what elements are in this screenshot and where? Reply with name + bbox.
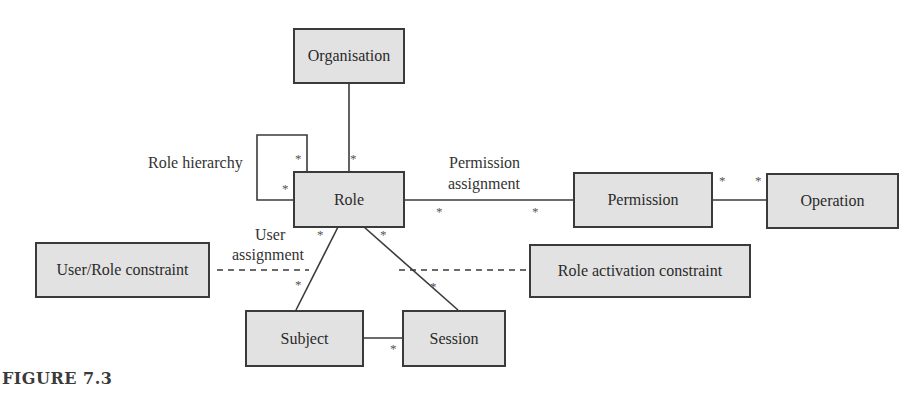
figure-caption: FIGURE 7.3 [2,369,112,388]
organisation-label: Organisation [308,47,390,65]
session-label: Session [430,330,479,348]
subject-label: Subject [281,330,329,348]
user-assignment-label-line2: assignment [232,246,304,264]
multiplicity-role-session-role: * [380,228,387,241]
user-assignment-label-line1: User [255,226,285,244]
multiplicity-role-session-session: * [430,280,437,293]
permission-assignment-label-line1: Permission [449,154,520,172]
multiplicity-role-permission-right: * [532,205,539,218]
permission-box: Permission [573,172,713,228]
operation-box: Operation [766,173,899,229]
user-role-constraint-box: User/Role constraint [35,242,210,298]
permission-label: Permission [607,191,678,209]
session-box: Session [402,310,506,367]
multiplicity-hierarchy-bottom: * [282,182,289,195]
multiplicity-org-role: * [350,152,357,165]
role-label: Role [334,191,364,209]
role-activation-constraint-box: Role activation constraint [529,244,751,298]
role-session-line [364,227,458,310]
role-box: Role [293,171,405,228]
multiplicity-permission-operation-right: * [755,174,762,187]
multiplicity-user-assignment-role: * [317,228,324,241]
multiplicity-subject-session: * [390,342,397,355]
organisation-box: Organisation [293,28,405,84]
multiplicity-hierarchy-top: * [295,152,302,165]
subject-box: Subject [245,310,364,367]
multiplicity-role-permission-left: * [436,205,443,218]
operation-label: Operation [801,192,865,210]
multiplicity-user-assignment-subject: * [295,278,302,291]
multiplicity-permission-operation-left: * [719,174,726,187]
role-activation-constraint-label: Role activation constraint [558,262,722,280]
role-hierarchy-label: Role hierarchy [148,154,243,172]
user-role-constraint-label: User/Role constraint [57,261,189,279]
permission-assignment-label-line2: assignment [448,175,520,193]
